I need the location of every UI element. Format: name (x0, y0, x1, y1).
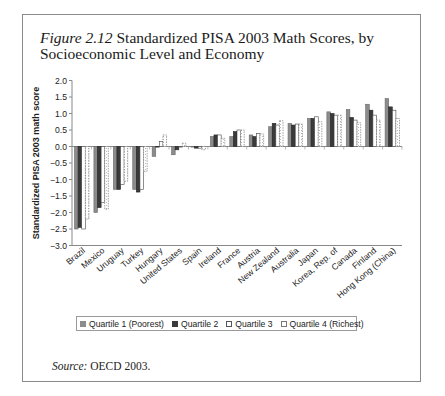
bar-australia-q2 (292, 125, 296, 146)
bar-finland-q2 (369, 110, 373, 146)
bar-brazil-q4 (85, 147, 89, 220)
y-tick-label: −2.5 (50, 224, 67, 234)
bar-uruguay-q1 (113, 147, 117, 190)
bar-united-states-q4 (182, 143, 186, 146)
bar-france-q3 (237, 130, 241, 147)
bar-united-states-q3 (179, 147, 183, 148)
bar-hong-kong-china--q1 (385, 99, 389, 147)
bar-new-zealand-q4 (279, 121, 283, 147)
bar-korea-rep-of-q2 (330, 114, 334, 147)
bar-brazil-q1 (75, 147, 79, 230)
y-tick-label: −0.5 (50, 158, 67, 168)
legend-item-q1: Quartile 1 (Poorest) (80, 319, 164, 329)
bar-hungary-q4 (163, 135, 167, 147)
bar-canada-q3 (353, 120, 357, 146)
bar-austria-q1 (249, 135, 253, 147)
bar-turkey-q4 (144, 147, 148, 172)
bar-spain-q2 (195, 147, 199, 149)
bar-chart: 2.01.51.00.50.0−0.5−1.0−1.5−2.0−2.5−3.0 … (0, 0, 445, 396)
bar-turkey-q1 (133, 147, 137, 190)
bar-united-states-q1 (172, 147, 176, 155)
bar-spain-q3 (198, 147, 202, 149)
bar-new-zealand-q2 (272, 123, 276, 146)
bar-finland-q1 (366, 104, 370, 146)
y-tick-label: 0.0 (55, 142, 67, 152)
bar-spain-q1 (191, 147, 195, 148)
bar-france-q2 (233, 132, 237, 147)
chart-legend: Quartile 1 (Poorest) Quartile 2 Quartile… (76, 316, 357, 331)
legend-label-q4: Quartile 4 (Richest) (290, 319, 364, 329)
bar-japan-q4 (318, 122, 322, 147)
y-tick-label: 1.0 (55, 109, 67, 119)
bar-finland-q4 (376, 120, 380, 146)
bar-austria-q2 (253, 137, 257, 147)
y-tick-label: −2.0 (50, 208, 67, 218)
bar-korea-rep-of-q1 (327, 112, 331, 147)
y-tick-label: −1.5 (50, 191, 67, 201)
bar-hong-kong-china--q2 (389, 107, 393, 147)
legend-item-q3: Quartile 3 (226, 319, 272, 329)
source-text: OECD 2003. (90, 360, 150, 372)
y-tick-label: 2.0 (55, 76, 67, 86)
bar-japan-q3 (315, 117, 319, 147)
bar-brazil-q3 (82, 147, 86, 230)
legend-label-q1: Quartile 1 (Poorest) (89, 319, 164, 329)
y-tick-label: 0.5 (55, 125, 67, 135)
bar-united-states-q2 (175, 147, 179, 150)
bar-france-q4 (241, 130, 245, 147)
bar-uruguay-q3 (121, 147, 125, 185)
bar-canada-q1 (346, 110, 350, 147)
bar-ireland-q1 (210, 137, 214, 147)
bar-japan-q1 (307, 118, 311, 146)
chart-bars (75, 99, 400, 229)
legend-swatch-q2 (172, 321, 178, 327)
bar-mexico-q1 (94, 147, 98, 213)
bar-hungary-q1 (152, 147, 156, 157)
x-axis-labels: BrazilMexicoUruguayTurkeyHungaryUnited S… (64, 245, 398, 300)
source-label: Source: (52, 360, 87, 372)
legend-swatch-q4 (281, 321, 287, 327)
bar-spain-q4 (202, 147, 206, 150)
bar-mexico-q4 (105, 147, 109, 210)
legend-swatch-q3 (226, 321, 232, 327)
bar-australia-q4 (299, 124, 303, 146)
bar-hungary-q2 (156, 147, 160, 148)
bar-korea-rep-of-q3 (334, 115, 338, 146)
bar-new-zealand-q1 (269, 127, 273, 147)
legend-item-q2: Quartile 2 (172, 319, 218, 329)
legend-label-q3: Quartile 3 (235, 319, 272, 329)
bar-hungary-q3 (159, 142, 163, 147)
figure-source: Source: OECD 2003. (52, 360, 150, 372)
bar-austria-q4 (260, 134, 264, 147)
bar-australia-q3 (295, 124, 299, 146)
bar-canada-q2 (350, 117, 354, 146)
bar-austria-q3 (256, 133, 260, 146)
bar-uruguay-q2 (117, 147, 121, 190)
y-tick-label: −1.0 (50, 175, 67, 185)
bar-canada-q4 (357, 123, 361, 147)
bar-korea-rep-of-q4 (338, 115, 342, 146)
legend-label-q2: Quartile 2 (181, 319, 218, 329)
bar-new-zealand-q3 (276, 125, 280, 146)
bar-uruguay-q4 (124, 147, 128, 182)
bar-ireland-q3 (218, 135, 222, 147)
bar-finland-q3 (373, 115, 377, 146)
bar-ireland-q4 (221, 138, 225, 146)
bar-ireland-q2 (214, 135, 218, 147)
bar-turkey-q2 (136, 147, 140, 193)
bar-turkey-q3 (140, 147, 144, 190)
y-tick-label: 1.5 (55, 92, 67, 102)
bar-mexico-q2 (98, 147, 102, 208)
bar-mexico-q3 (101, 147, 105, 203)
bar-brazil-q2 (78, 147, 82, 228)
bar-australia-q1 (288, 123, 292, 146)
bar-hong-kong-china--q3 (392, 110, 396, 146)
legend-item-q4: Quartile 4 (Richest) (281, 319, 364, 329)
y-tick-label: −3.0 (50, 241, 67, 251)
legend-swatch-q1 (80, 321, 86, 327)
bar-hong-kong-china--q4 (396, 118, 400, 146)
bar-france-q1 (230, 137, 234, 147)
bar-japan-q2 (311, 118, 315, 146)
